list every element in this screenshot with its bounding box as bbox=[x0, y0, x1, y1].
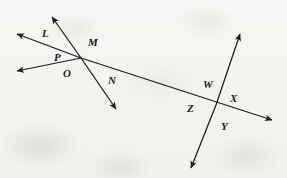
geometry-figure: L M P O N W X Z Y bbox=[0, 0, 287, 178]
long-transversal-line bbox=[81, 58, 272, 120]
point-label-Y: Y bbox=[221, 121, 228, 132]
point-label-P: P bbox=[54, 52, 61, 63]
point-label-O: O bbox=[63, 68, 71, 79]
ray-L-upper-left bbox=[17, 34, 81, 58]
point-label-W: W bbox=[203, 79, 213, 90]
ray-O-lower-left bbox=[17, 58, 81, 71]
ray-Z-lower-left bbox=[191, 105, 216, 168]
point-label-N: N bbox=[108, 75, 116, 86]
point-label-M: M bbox=[88, 37, 98, 48]
point-label-L: L bbox=[42, 28, 49, 39]
point-label-Z: Z bbox=[187, 103, 194, 114]
point-label-X: X bbox=[230, 93, 237, 104]
